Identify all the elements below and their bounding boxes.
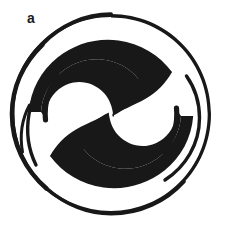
figure-illustration (0, 0, 226, 235)
panel-label: a (27, 11, 35, 25)
figure-panel: a (0, 0, 226, 235)
